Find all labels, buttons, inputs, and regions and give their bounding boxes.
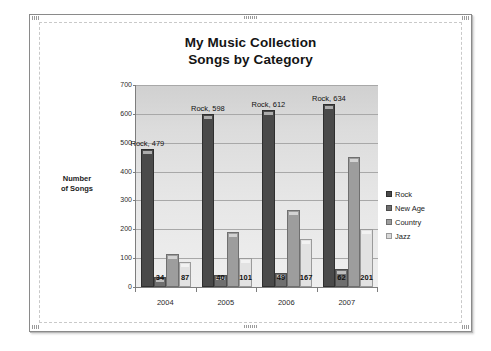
legend-item-jazz[interactable]: Jazz (386, 229, 450, 243)
bar-highlight (241, 260, 250, 263)
bar-highlight (289, 212, 298, 215)
bar-new-age-2006[interactable]: 49 (275, 273, 288, 287)
y-axis-tick-label: 600 (112, 110, 132, 117)
y-axis-tick-label: 400 (112, 168, 132, 175)
plot-wrapper: 0100200300400500600700Rock, 4793487Rock,… (113, 85, 378, 310)
plot-area[interactable]: 0100200300400500600700Rock, 4793487Rock,… (135, 85, 378, 288)
x-axis-tick-mark (317, 288, 318, 292)
bar-highlight (204, 116, 213, 119)
data-label: 40 (216, 273, 224, 282)
top-rail-right-marker (462, 16, 469, 20)
x-axis-tick-mark (196, 288, 197, 292)
bar-jazz-2007[interactable]: 201 (360, 229, 373, 287)
x-axis-tick-mark (377, 288, 378, 292)
data-label: 49 (277, 273, 285, 282)
bar-rock-2004[interactable]: Rock, 479 (141, 149, 154, 287)
bar-highlight (325, 106, 334, 109)
data-label: 87 (181, 273, 189, 282)
bar-new-age-2007[interactable]: 62 (335, 269, 348, 287)
legend-item-label: New Age (395, 204, 425, 213)
bar-highlight (362, 231, 371, 234)
data-label: 62 (337, 273, 345, 282)
bottom-rail-center-marker (244, 325, 258, 328)
page-bottom-rail (30, 325, 471, 330)
bar-jazz-2004[interactable]: 87 (179, 262, 192, 287)
bar-country-2007[interactable] (348, 157, 361, 287)
top-rail-left-marker (32, 16, 39, 20)
y-axis-tick-label: 700 (112, 81, 132, 88)
chart-title: My Music Collection Songs by Category (41, 34, 460, 68)
legend-swatch-icon (386, 219, 392, 225)
bar-new-age-2004[interactable]: 34 (154, 277, 167, 287)
y-axis-title-line-1: Number (49, 174, 105, 184)
legend-item-label: Country (395, 218, 421, 227)
legend-item-label: Rock (395, 190, 412, 199)
bar-jazz-2006[interactable]: 167 (300, 239, 313, 287)
legend-item-country[interactable]: Country (386, 215, 450, 229)
chart-title-line-1: My Music Collection (41, 34, 460, 51)
data-label: Rock, 598 (191, 104, 225, 113)
data-label: 167 (300, 273, 313, 282)
x-axis-tick-label: 2004 (135, 298, 196, 307)
bar-highlight (168, 256, 177, 259)
category-group: Rock, 59840101 (197, 85, 258, 287)
data-label: 34 (156, 273, 164, 282)
bar-highlight (302, 241, 311, 244)
bar-country-2005[interactable] (227, 232, 240, 287)
bar-rock-2005[interactable]: Rock, 598 (202, 114, 215, 287)
y-axis-tick-label: 200 (112, 225, 132, 232)
bottom-rail-left-marker (32, 325, 39, 329)
legend-swatch-icon (386, 233, 392, 239)
x-axis-tick-mark (135, 288, 136, 292)
bar-country-2006[interactable] (287, 210, 300, 287)
category-group: Rock, 61249167 (257, 85, 318, 287)
x-axis-tick-mark (256, 288, 257, 292)
bar-highlight (143, 151, 152, 154)
bar-new-age-2005[interactable]: 40 (214, 275, 227, 287)
chart-object[interactable]: My Music Collection Songs by Category Nu… (41, 24, 460, 321)
data-label: 201 (360, 273, 373, 282)
page-top-rail (30, 16, 471, 21)
y-axis-tick-label: 0 (112, 283, 132, 290)
legend-swatch-icon (386, 205, 392, 211)
category-group: Rock, 4793487 (136, 85, 197, 287)
bar-highlight (264, 112, 273, 115)
legend-item-label: Jazz (395, 232, 410, 241)
y-axis-title: Number of Songs (49, 174, 105, 194)
chart-title-line-2: Songs by Category (41, 51, 460, 68)
legend-item-newage[interactable]: New Age (386, 201, 450, 215)
x-axis-tick-label: 2006 (256, 298, 317, 307)
y-axis-tick-label: 500 (112, 139, 132, 146)
y-axis-tick-label: 300 (112, 196, 132, 203)
bar-highlight (350, 159, 359, 162)
bottom-rail-right-marker (462, 325, 469, 329)
legend-item-rock[interactable]: Rock (386, 187, 450, 201)
bar-rock-2006[interactable]: Rock, 612 (262, 110, 275, 287)
data-label: Rock, 479 (131, 139, 165, 148)
document-page[interactable]: My Music Collection Songs by Category Nu… (29, 14, 472, 332)
data-label: Rock, 612 (252, 100, 286, 109)
chart-legend[interactable]: RockNew AgeCountryJazz (386, 187, 450, 243)
bar-rock-2007[interactable]: Rock, 634 (323, 104, 336, 287)
y-axis-tick-label: 100 (112, 254, 132, 261)
category-group: Rock, 63462201 (318, 85, 379, 287)
bar-highlight (229, 234, 238, 237)
y-axis-title-line-2: of Songs (49, 184, 105, 194)
bar-highlight (181, 264, 190, 267)
bar-jazz-2005[interactable]: 101 (239, 258, 252, 287)
data-label: Rock, 634 (312, 94, 346, 103)
top-rail-center-marker (244, 16, 258, 19)
x-axis-tick-label: 2007 (317, 298, 378, 307)
bar-country-2004[interactable] (166, 254, 179, 287)
x-axis-tick-label: 2005 (196, 298, 257, 307)
legend-swatch-icon (386, 191, 392, 197)
data-label: 101 (239, 273, 252, 282)
